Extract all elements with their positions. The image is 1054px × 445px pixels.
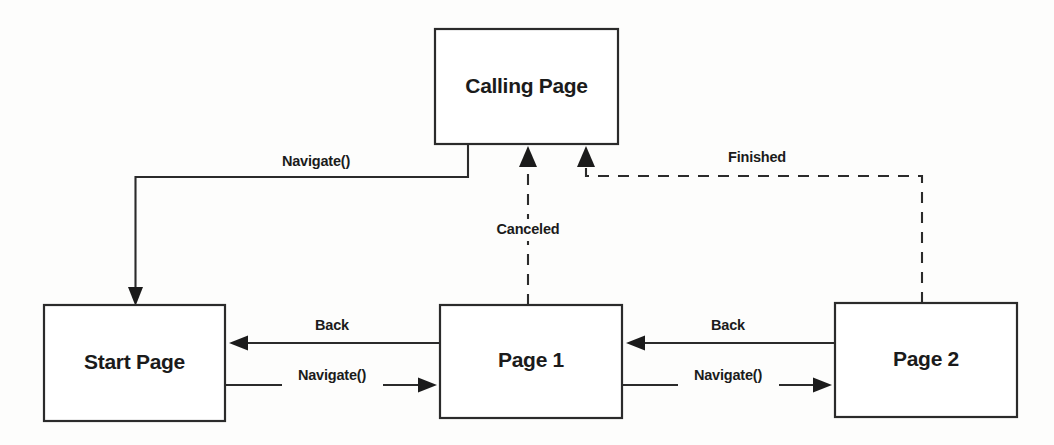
edge-label-finished: Finished [728,149,786,165]
edge-page1-to-start: Back [229,315,440,351]
edge-page1-to-calling: Canceled [487,146,569,305]
node-page-2[interactable]: Page 2 [835,303,1017,417]
edge-label-navigate-page1-to-page2: Navigate() [694,367,762,383]
arrow-head-navigate-into-page1 [418,378,437,393]
edge-label-back-page1-to-start: Back [315,317,350,333]
node-calling-page-label: Calling Page [465,74,587,97]
edge-label-canceled: Canceled [497,221,560,237]
node-start-page-label: Start Page [84,350,185,373]
edge-page2-to-calling: Finished [577,146,922,303]
node-page-1-label: Page 1 [498,348,565,371]
node-start-page[interactable]: Start Page [44,305,225,421]
edge-start-to-page1: Navigate() [225,365,437,393]
arrow-head-finished-into-calling-page [577,146,595,167]
node-page-2-label: Page 2 [893,347,959,370]
navigation-diagram: Navigate() Back Navigate() Back [0,0,1054,445]
arrow-head-navigate-into-page2 [813,378,832,393]
arrow-head-canceled-into-calling-page [519,146,537,167]
node-page-1[interactable]: Page 1 [440,305,622,418]
diagram-page: Navigate() Back Navigate() Back [0,0,1054,445]
edge-page2-to-page1: Back [626,315,835,351]
node-calling-page[interactable]: Calling Page [435,29,618,144]
arrow-head-into-start-page [128,287,143,306]
edge-label-back-page2-to-page1: Back [711,317,746,333]
edge-label-navigate-calling-to-start: Navigate() [282,153,350,169]
edge-page2-to-calling-line [586,162,922,303]
arrow-head-back-into-start-page [229,336,248,351]
edge-calling-to-start: Navigate() [128,144,468,306]
edge-label-navigate-start-to-page1: Navigate() [298,367,366,383]
edge-page1-to-page2: Navigate() [622,365,832,393]
arrow-head-back-into-page1 [626,336,645,351]
